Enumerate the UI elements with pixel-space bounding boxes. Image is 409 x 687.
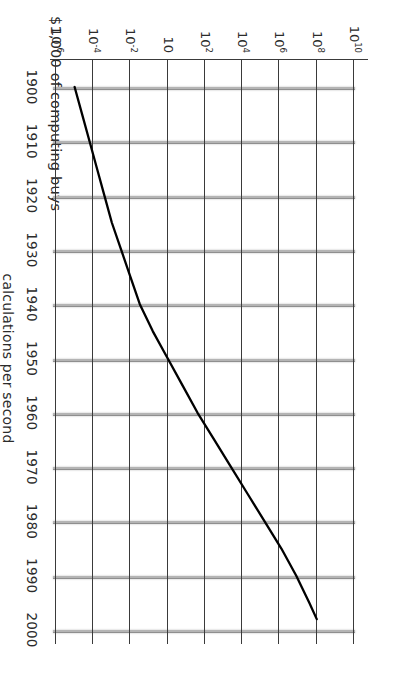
x-tick-label: 1950 <box>24 341 40 376</box>
y-tick-label: 1010 <box>347 26 362 53</box>
y-axis-title: calculations per second <box>0 273 16 443</box>
chart-figure: $1,000 of computing buys 190019101920193… <box>0 0 409 687</box>
rotated-chart-stage: $1,000 of computing buys 190019101920193… <box>0 0 409 687</box>
x-tick-label: 1960 <box>24 395 40 430</box>
y-tick-label: 108 <box>309 31 324 53</box>
y-tick-label: 104 <box>235 31 250 53</box>
plot-area <box>56 87 354 630</box>
x-tick-label: 1990 <box>24 558 40 593</box>
series-line <box>56 87 354 630</box>
x-tick-label: 1980 <box>24 504 40 539</box>
y-tick-label: 102 <box>198 31 213 53</box>
x-tick-label: 1920 <box>24 178 40 213</box>
y-tick-label: 10-4 <box>86 28 101 53</box>
y-tick-label: 10-6 <box>49 28 64 53</box>
data-line <box>75 87 317 619</box>
y-axis-line <box>50 59 368 60</box>
x-tick-label: 1970 <box>24 450 40 485</box>
y-tick-label: 10 <box>160 36 175 53</box>
x-tick-label: 2000 <box>24 612 40 647</box>
x-tick-label: 1910 <box>24 124 40 159</box>
x-tick-label: 1940 <box>24 287 40 322</box>
x-tick-label: 1900 <box>24 69 40 104</box>
y-tick-label: 10-2 <box>123 28 138 53</box>
y-tick-label: 106 <box>272 31 287 53</box>
x-tick-label: 1930 <box>24 232 40 267</box>
